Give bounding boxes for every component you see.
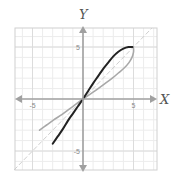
y-axis-arrow-up-icon <box>79 26 87 33</box>
axes <box>15 26 157 172</box>
series-f-x--line <box>53 47 133 144</box>
y-tick-label: 5 <box>76 44 80 51</box>
x-tick-label: -5 <box>29 102 35 109</box>
function-inverse-chart: -555-5 X Y <box>0 0 174 177</box>
y-axis-arrow-down-icon <box>79 165 87 172</box>
y-axis-label: Y <box>79 7 89 22</box>
y-tick-label: -5 <box>74 148 80 155</box>
x-axis-label: X <box>159 92 170 107</box>
series-f-1-x--line <box>40 48 134 130</box>
x-axis-arrow-left-icon <box>15 95 22 103</box>
x-tick-label: 5 <box>132 102 136 109</box>
